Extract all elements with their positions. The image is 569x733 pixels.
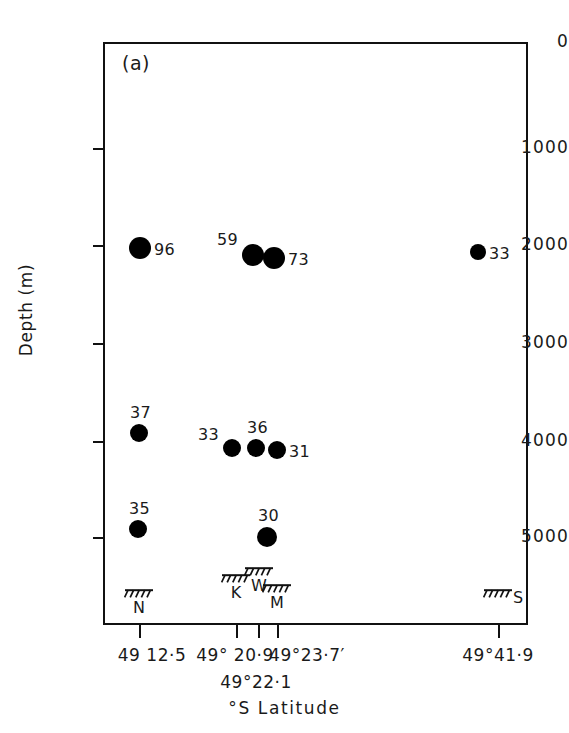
data-point: [129, 237, 151, 259]
y-tick-mark: [93, 441, 105, 443]
x-tick-label: 49° 20·9: [196, 645, 273, 665]
data-point: [130, 424, 148, 442]
data-point-label: 37: [130, 403, 151, 422]
x-tick-label: 49°22·1: [220, 672, 291, 692]
data-point: [242, 244, 264, 266]
x-tick-label: 49 12·5: [118, 645, 186, 665]
x-tick-mark: [277, 625, 279, 638]
data-point-label: 30: [258, 506, 279, 525]
y-tick-label: 1000: [483, 137, 569, 157]
data-point: [470, 244, 486, 260]
y-tick-mark: [93, 343, 105, 345]
data-point-label: 59: [217, 230, 238, 249]
panel-label: (a): [122, 52, 150, 74]
plot-area-frame: [103, 42, 528, 625]
station-marker-m: M: [262, 583, 292, 611]
x-tick-mark: [258, 625, 260, 638]
data-point: [247, 439, 265, 457]
y-tick-mark: [93, 148, 105, 150]
seabed-hatch-icon: [483, 588, 513, 599]
x-tick-mark: [498, 625, 500, 638]
data-point: [263, 247, 285, 269]
y-tick-label: 4000: [483, 430, 569, 450]
station-label: S: [513, 589, 523, 606]
station-label: M: [262, 594, 292, 611]
y-tick-label: 5000: [483, 526, 569, 546]
station-label: N: [124, 599, 154, 616]
data-point: [268, 441, 286, 459]
data-point: [257, 527, 277, 547]
x-axis-title: °S Latitude: [0, 698, 569, 718]
data-point-label: 35: [129, 499, 150, 518]
y-tick-mark: [93, 537, 105, 539]
data-point-label: 96: [154, 240, 175, 259]
data-point-label: 31: [289, 442, 310, 461]
data-point-label: 33: [489, 244, 510, 263]
x-tick-label: 49°41·9: [462, 645, 533, 665]
x-tick-mark: [139, 625, 141, 638]
station-marker-n: N: [124, 588, 154, 616]
depth-latitude-scatter-figure: (a) Depth (m) 010002000300040005000 49 1…: [0, 0, 569, 733]
y-axis-title: Depth (m): [16, 250, 36, 370]
x-tick-label: 49°23·7′: [269, 645, 345, 665]
x-tick-mark: [236, 625, 238, 638]
y-tick-label: 0: [483, 31, 569, 51]
data-point-label: 36: [247, 418, 268, 437]
station-marker-s: S: [483, 588, 513, 599]
data-point-label: 73: [288, 250, 309, 269]
y-tick-mark: [93, 245, 105, 247]
data-point: [129, 520, 147, 538]
data-point: [223, 439, 241, 457]
data-point-label: 33: [198, 425, 219, 444]
y-tick-label: 3000: [483, 332, 569, 352]
